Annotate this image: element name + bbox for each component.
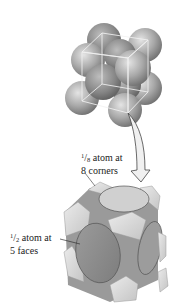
face-atoms-label: 1/2 atom at 5 faces: [10, 230, 52, 256]
corner-piece: [158, 232, 166, 262]
packed-spheres-model: [65, 23, 162, 127]
face-fraction: 1/2: [10, 232, 19, 243]
corner-fraction: 1/8: [81, 152, 90, 163]
atom-sphere: [115, 50, 151, 86]
corner-label-line2: 8 corners: [81, 165, 123, 176]
sliced-unit-cell: [64, 182, 168, 302]
down-arrow: [128, 113, 150, 182]
corner-piece: [158, 268, 168, 292]
atom-sphere: [108, 93, 142, 127]
half-atom-top-face: [99, 186, 149, 212]
corner-atoms-label: 1/8 atom at 8 corners: [81, 150, 123, 176]
face-label-line2: 5 faces: [10, 245, 52, 256]
